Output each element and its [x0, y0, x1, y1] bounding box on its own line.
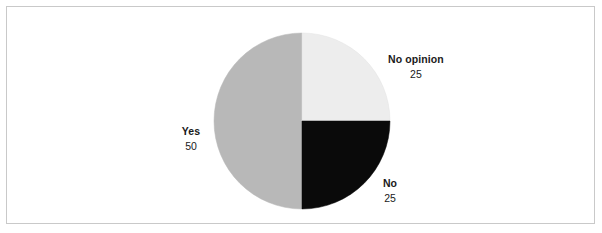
pie-label-no-opinion-value: 25 [388, 69, 444, 80]
pie-label-yes-name: Yes [168, 126, 214, 137]
pie-chart-svg [0, 0, 602, 233]
pie-label-no-value: 25 [375, 193, 405, 204]
pie-label-no-opinion-name: No opinion [388, 54, 444, 65]
pie-slice-no-opinion[interactable] [302, 33, 390, 121]
pie-label-yes-value: 50 [168, 141, 214, 152]
pie-slice-yes[interactable] [214, 33, 302, 209]
pie-chart-figure: No opinion 25 No 25 Yes 50 [0, 0, 602, 233]
pie-label-yes: Yes 50 [168, 126, 214, 151]
pie-label-no: No 25 [375, 178, 405, 203]
plot-area: No opinion 25 No 25 Yes 50 [0, 0, 602, 233]
pie-label-no-name: No [375, 178, 405, 189]
pie-label-no-opinion: No opinion 25 [388, 54, 444, 79]
